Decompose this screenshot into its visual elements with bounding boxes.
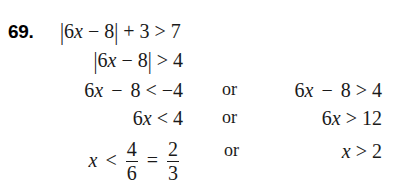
minus-sign-2: − — [121, 49, 132, 71]
coefficient-1: 6 — [64, 20, 74, 42]
relation-3r: > — [356, 79, 367, 101]
constant-3r: 8 — [341, 79, 351, 101]
right-hand-side-5r: 2 — [372, 140, 382, 162]
worked-solution-page: 69. |6x−8|+3>7 |6x−8|>4 6x−8<−4 or 6x−8>… — [0, 0, 395, 183]
minus-sign-3l: − — [111, 79, 122, 101]
line-3-left-branch: 6x−8<−4 — [0, 79, 183, 102]
minus-sign-3r: − — [321, 79, 332, 101]
coefficient-3l: 6 — [84, 79, 94, 101]
variable-5r: x — [342, 140, 351, 162]
line-3-right-branch: 6x−8>4 — [256, 79, 382, 102]
minus-sign-1: − — [88, 20, 99, 42]
absolute-value-bar-close-2: | — [148, 46, 152, 75]
added-term-1: 3 — [139, 20, 149, 42]
right-hand-side-1: 7 — [171, 20, 181, 42]
line-5-left-branch: x<46=23 — [60, 140, 183, 183]
relation-4r: > — [346, 107, 357, 129]
variable-3r: x — [305, 79, 314, 101]
variable-4r: x — [332, 107, 341, 129]
fraction-four-sixths: 46 — [125, 139, 139, 183]
fraction-two-thirds: 23 — [166, 139, 180, 183]
variable-5l: x — [89, 149, 98, 171]
constant-1: 8 — [104, 20, 114, 42]
variable-1: x — [74, 20, 83, 42]
absolute-value-bar-open-2: | — [94, 46, 98, 75]
relation-5l: < — [105, 149, 116, 171]
constant-2: 8 — [138, 49, 148, 71]
line-4-right-branch: 6x>12 — [256, 107, 382, 130]
constant-3l: 8 — [130, 79, 140, 101]
right-hand-side-3l: −4 — [162, 79, 183, 101]
equals-sign-5l: = — [147, 149, 158, 171]
problem-number: 69. — [8, 21, 34, 43]
coefficient-4r: 6 — [322, 107, 332, 129]
relation-3l: < — [145, 79, 156, 101]
right-hand-side-4r: 12 — [362, 107, 382, 129]
fraction-denominator-2: 3 — [166, 162, 180, 183]
absolute-value-bar-open-1: | — [60, 17, 64, 46]
right-hand-side-4l: 4 — [173, 107, 183, 129]
connector-or-5: or — [224, 140, 258, 161]
coefficient-4l: 6 — [133, 107, 143, 129]
relation-2: > — [157, 49, 168, 71]
variable-4l: x — [143, 107, 152, 129]
plus-sign-1: + — [123, 20, 134, 42]
line-5-right-branch: x>2 — [256, 140, 382, 163]
connector-or-3: or — [222, 79, 256, 100]
solution-line-2: |6x−8|>4 — [60, 49, 183, 72]
fraction-denominator-1: 6 — [125, 162, 139, 183]
relation-4l: < — [157, 107, 168, 129]
absolute-value-bar-close-1: | — [114, 17, 118, 46]
right-hand-side-3r: 4 — [372, 79, 382, 101]
fraction-numerator-2: 2 — [166, 139, 180, 161]
fraction-numerator-1: 4 — [125, 139, 139, 161]
relation-1: > — [154, 20, 165, 42]
variable-3l: x — [94, 79, 103, 101]
coefficient-2: 6 — [98, 49, 108, 71]
relation-5r: > — [356, 140, 367, 162]
coefficient-3r: 6 — [295, 79, 305, 101]
connector-or-4: or — [222, 107, 256, 128]
solution-line-1: |6x−8|+3>7 — [60, 20, 181, 43]
line-4-left-branch: 6x<4 — [0, 107, 183, 130]
variable-2: x — [108, 49, 117, 71]
right-hand-side-2: 4 — [173, 49, 183, 71]
